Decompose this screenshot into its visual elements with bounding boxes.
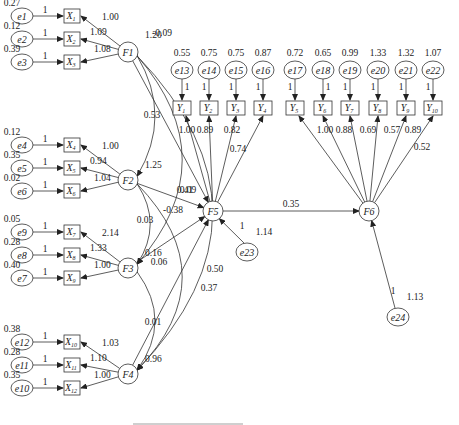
structural-path-F4-F5 — [133, 220, 209, 365]
fixed-loading: 1 — [43, 28, 48, 38]
error-label: e12 — [15, 337, 29, 348]
error-label: e16 — [256, 65, 270, 76]
loading-value: 1.04 — [94, 173, 111, 183]
error-label: e18 — [316, 65, 330, 76]
fixed-loading: 1 — [202, 82, 207, 92]
error-label: e17 — [288, 65, 303, 76]
error-variance: 0.40 — [4, 260, 21, 270]
loading-value: 1.00 — [179, 125, 196, 135]
error-variance: 0.35 — [4, 370, 21, 380]
disturbance-variance: 1.14 — [256, 227, 273, 237]
factor-variance: 1.25 — [145, 160, 162, 170]
error-label: e9 — [17, 227, 26, 238]
loading-value: 0.82 — [224, 125, 241, 135]
disturbance-variance: 1.13 — [407, 292, 424, 302]
error-variance: 0.05 — [4, 214, 21, 224]
error-label: e7 — [17, 273, 27, 284]
fixed-loading: 1 — [43, 5, 48, 15]
loading-arrow — [81, 270, 118, 278]
error-variance: 0.72 — [287, 48, 304, 58]
fixed-loading: 1 — [326, 82, 331, 92]
covariance-value: 0.01 — [145, 317, 162, 327]
loading-value: 1.00 — [102, 12, 119, 22]
loading-value: 1.03 — [102, 338, 119, 348]
path-coefficient: 0.35 — [283, 199, 300, 209]
loading-value: 1.00 — [94, 260, 111, 270]
error-label: e10 — [15, 383, 29, 394]
fixed-loading: 1 — [43, 244, 48, 254]
fixed-loading: 1 — [43, 354, 48, 364]
error-variance: 0.75 — [201, 48, 218, 58]
error-label: e11 — [15, 360, 29, 371]
loading-value: 1.33 — [90, 243, 107, 253]
fixed-loading: 1 — [43, 377, 48, 387]
factor-label: F5 — [206, 206, 218, 217]
loading-value: 0.74 — [230, 144, 247, 154]
error-variance: 0.35 — [4, 150, 21, 160]
error-label: e3 — [17, 57, 26, 68]
fixed-loading: 1 — [391, 286, 396, 296]
loading-arrow — [81, 182, 118, 191]
fixed-loading: 1 — [426, 82, 431, 92]
error-label: e13 — [175, 65, 189, 76]
error-variance: 1.32 — [398, 48, 415, 58]
error-variance: 1.33 — [370, 48, 387, 58]
error-label: e20 — [371, 65, 385, 76]
factor-variance: 0.96 — [145, 354, 162, 364]
covariance-value: 0.09 — [180, 185, 197, 195]
error-label: e19 — [343, 65, 357, 76]
error-variance: 0.38 — [4, 324, 21, 334]
fixed-loading: 1 — [343, 82, 348, 92]
fixed-loading: 1 — [240, 221, 245, 231]
loading-value: 1.08 — [94, 44, 111, 54]
fixed-loading: 1 — [43, 51, 48, 61]
factor-label: F2 — [121, 175, 133, 186]
error-variance: 0.12 — [4, 127, 21, 137]
error-variance: 0.27 — [4, 0, 21, 8]
error-variance: 0.39 — [4, 44, 21, 54]
error-variance: 0.75 — [228, 48, 245, 58]
error-label: e6 — [17, 186, 26, 197]
covariance-value: 0.03 — [137, 215, 154, 225]
fixed-loading: 1 — [43, 134, 48, 144]
path-coefficient: -0.38 — [163, 205, 183, 215]
error-label: e4 — [17, 140, 26, 151]
error-label: e2 — [17, 34, 26, 45]
loading-value: 1.00 — [317, 125, 334, 135]
factor-label: F3 — [121, 263, 133, 274]
error-label: e8 — [17, 250, 26, 261]
fixed-loading: 1 — [43, 180, 48, 190]
error-label: e24 — [391, 312, 405, 323]
loading-value: 1.00 — [102, 141, 119, 151]
error-variance: 0.87 — [255, 48, 272, 58]
fixed-loading: 1 — [371, 82, 376, 92]
error-label: e22 — [426, 65, 440, 76]
error-variance: 0.12 — [4, 21, 21, 31]
fixed-loading: 1 — [256, 82, 261, 92]
error-variance: 1.07 — [425, 48, 442, 58]
fixed-loading: 1 — [288, 82, 293, 92]
error-label: e23 — [240, 247, 254, 258]
loading-value: 0.89 — [197, 125, 214, 135]
path-coefficient: -0.09 — [152, 28, 172, 38]
error-variance: 0.65 — [315, 48, 332, 58]
loading-value: 2.14 — [102, 228, 119, 238]
error-variance: 0.99 — [342, 48, 359, 58]
error-label: e15 — [229, 65, 243, 76]
error-variance: 0.28 — [4, 347, 21, 357]
fixed-loading: 1 — [185, 82, 190, 92]
error-label: e21 — [399, 65, 413, 76]
fixed-loading: 1 — [43, 267, 48, 277]
loading-value: 0.89 — [405, 125, 422, 135]
loading-value: 1.00 — [94, 370, 111, 380]
loading-value: 1.10 — [90, 353, 107, 363]
loading-value: 0.52 — [414, 142, 431, 152]
error-variance: 0.55 — [174, 48, 191, 58]
factor-label: F1 — [121, 47, 133, 58]
covariance-value: 0.06 — [151, 257, 168, 267]
factor-label: F6 — [362, 206, 374, 217]
fixed-loading: 1 — [399, 82, 404, 92]
loading-value: 0.57 — [384, 125, 401, 135]
factor-label: F4 — [121, 369, 133, 380]
fixed-loading: 1 — [43, 157, 48, 167]
